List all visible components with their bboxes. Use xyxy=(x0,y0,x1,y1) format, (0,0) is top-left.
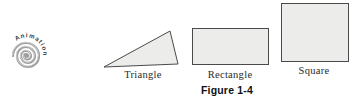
animation-logo[interactable]: Animation xyxy=(8,26,52,74)
triangle-polygon xyxy=(104,31,178,67)
spiral-icon xyxy=(12,42,39,67)
shape-label-triangle: Triangle xyxy=(103,69,183,80)
shape-label-square: Square xyxy=(274,65,354,76)
figure-caption: Figure 1-4 xyxy=(187,84,267,96)
triangle-shape xyxy=(100,28,182,70)
shape-label-rectangle: Rectangle xyxy=(190,69,270,80)
figure-panel: Animation Triangle Rectangle Square Figu… xyxy=(0,0,362,99)
rectangle-shape xyxy=(192,28,269,65)
square-shape xyxy=(281,3,349,62)
